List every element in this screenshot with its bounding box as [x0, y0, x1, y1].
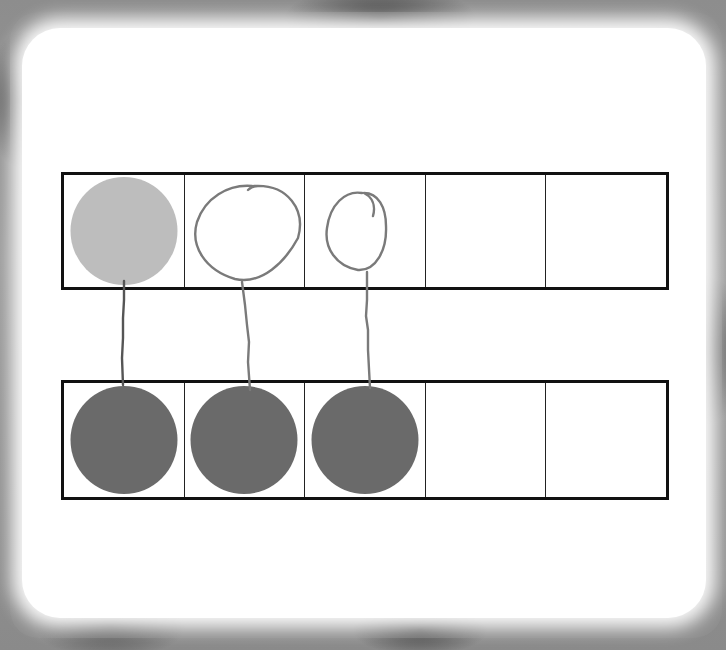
bottom-frame-cell-4	[426, 383, 547, 497]
top-frame-cell-5	[546, 175, 666, 287]
light-counter	[70, 177, 177, 285]
top-frame-cell-3	[305, 175, 426, 287]
bottom-five-frame	[61, 380, 669, 500]
bottom-frame-cell-2	[185, 383, 306, 497]
bottom-frame-cell-5	[546, 383, 666, 497]
dark-counter	[70, 386, 177, 494]
bottom-frame-cell-3	[305, 383, 426, 497]
top-frame-cell-1	[64, 175, 185, 287]
bottom-frame-cell-1	[64, 383, 185, 497]
dark-counter	[311, 386, 418, 494]
side-credit-text	[0, 505, 8, 645]
top-frame-cell-4	[426, 175, 547, 287]
worksheet-paper	[22, 28, 706, 618]
top-five-frame	[61, 172, 669, 290]
dark-counter	[191, 386, 298, 494]
top-frame-cell-2	[185, 175, 306, 287]
